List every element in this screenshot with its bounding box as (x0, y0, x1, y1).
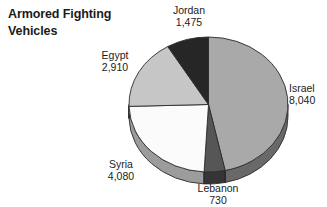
slice-label-lebanon-name: Lebanon (178, 182, 258, 194)
slice-label-israel: Israel 8,040 (289, 82, 327, 107)
slice-label-israel-value: 8,040 (289, 94, 327, 106)
slice-label-jordan-name: Jordan (158, 4, 220, 16)
pie-chart-figure: Armored Fighting Vehicles Jordan 1,475 E… (0, 0, 327, 207)
slice-label-egypt: Egypt 2,910 (84, 49, 146, 74)
slice-label-israel-name: Israel (289, 82, 327, 94)
pie-top-faces (129, 37, 288, 172)
slice-label-lebanon-value: 730 (178, 194, 258, 206)
slice-label-jordan-value: 1,475 (158, 16, 220, 28)
slice-label-egypt-name: Egypt (84, 49, 146, 61)
slice-label-egypt-value: 2,910 (84, 61, 146, 73)
slice-label-jordan: Jordan 1,475 (158, 4, 220, 29)
slice-label-syria-value: 4,080 (90, 170, 152, 182)
pie-chart-graphic (0, 0, 327, 207)
slice-label-lebanon: Lebanon 730 (178, 182, 258, 207)
slice-label-syria-name: Syria (90, 158, 152, 170)
slice-label-syria: Syria 4,080 (90, 158, 152, 183)
